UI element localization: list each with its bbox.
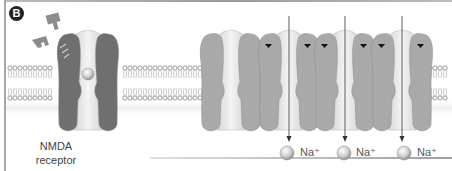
- lipid-tail: [139, 88, 142, 96]
- lipid-head: [438, 96, 442, 100]
- lipid-head: [18, 96, 22, 100]
- lipid-tail: [134, 70, 137, 78]
- lipid-tail: [29, 88, 32, 96]
- lipid-head: [13, 66, 17, 70]
- lipid-head: [193, 66, 197, 70]
- receptor: [57, 30, 118, 131]
- lipid-head: [38, 66, 42, 70]
- lipid-head: [188, 66, 192, 70]
- lipid-tail: [189, 88, 192, 96]
- lipid-tail: [169, 70, 172, 78]
- lipid-head: [158, 96, 162, 100]
- lipid-tail: [49, 70, 52, 78]
- lipid-head: [193, 96, 197, 100]
- sodium-ion-label: Na⁺: [417, 146, 437, 159]
- nmda-label-line1: NMDA: [30, 139, 82, 153]
- lipid-tail: [44, 88, 47, 96]
- lipid-head: [168, 96, 172, 100]
- glutamate-ligand: [46, 12, 63, 31]
- lipid-head: [138, 96, 142, 100]
- lipid-tail: [199, 88, 202, 96]
- lipid-head: [123, 66, 127, 70]
- lipid-tail: [444, 88, 447, 96]
- lipid-tail: [194, 70, 197, 78]
- lipid-tail: [19, 70, 22, 78]
- lipid-tail: [154, 88, 157, 96]
- lipid-head: [433, 66, 437, 70]
- lipid-tail: [179, 70, 182, 78]
- lipid-head: [158, 66, 162, 70]
- lipid-head: [8, 66, 12, 70]
- lipid-tail: [164, 70, 167, 78]
- lipid-head: [153, 96, 157, 100]
- lipid-tail: [159, 88, 162, 96]
- lipid-head: [183, 66, 187, 70]
- sodium-ion: [280, 146, 294, 160]
- lipid-tail: [29, 70, 32, 78]
- lipid-tail: [184, 88, 187, 96]
- sodium-ion-label: Na⁺: [300, 146, 320, 159]
- lipid-head: [48, 96, 52, 100]
- lipid-head: [188, 96, 192, 100]
- lipid-tail: [19, 88, 22, 96]
- lipid-tail: [179, 88, 182, 96]
- lipid-head: [143, 66, 147, 70]
- lipid-head: [128, 66, 132, 70]
- sodium-ion: [337, 146, 351, 160]
- glycine-ligand: [32, 36, 49, 48]
- receptors: [57, 30, 432, 131]
- lipid-head: [23, 66, 27, 70]
- lipid-head: [143, 96, 147, 100]
- lipid-head: [443, 96, 447, 100]
- nmda-receptor-label: NMDA receptor: [30, 139, 82, 167]
- lipid-head: [33, 66, 37, 70]
- lipid-tail: [169, 88, 172, 96]
- lipid-tail: [194, 88, 197, 96]
- lipid-head: [148, 96, 152, 100]
- lipid-tail: [39, 70, 42, 78]
- lipid-tail: [14, 70, 17, 78]
- lipid-head: [198, 96, 202, 100]
- lipid-tail: [124, 70, 127, 78]
- lipid-tail: [129, 70, 132, 78]
- lipid-tail: [9, 70, 12, 78]
- lipid-head: [148, 66, 152, 70]
- lipid-tail: [159, 70, 162, 78]
- lipid-head: [23, 96, 27, 100]
- lipid-head: [443, 66, 447, 70]
- lipid-head: [128, 96, 132, 100]
- lipid-head: [48, 66, 52, 70]
- lipid-tail: [164, 88, 167, 96]
- lipid-tail: [144, 88, 147, 96]
- lipid-head: [38, 96, 42, 100]
- lipid-tail: [134, 88, 137, 96]
- lipid-tail: [174, 88, 177, 96]
- lipid-tail: [174, 70, 177, 78]
- lipid-tail: [39, 88, 42, 96]
- lipid-tail: [199, 70, 202, 78]
- lipid-tail: [189, 70, 192, 78]
- arrow-head: [287, 136, 292, 142]
- lipid-head: [438, 66, 442, 70]
- lipid-head: [8, 96, 12, 100]
- lipid-tail: [434, 70, 437, 78]
- lipid-tail: [34, 70, 37, 78]
- lipid-head: [173, 96, 177, 100]
- arrow-head: [400, 136, 405, 142]
- lipid-tail: [149, 70, 152, 78]
- lipid-tail: [149, 88, 152, 96]
- lipid-head: [28, 96, 32, 100]
- lipid-head: [168, 66, 172, 70]
- lipid-tail: [439, 88, 442, 96]
- lipid-tail: [14, 88, 17, 96]
- lipid-tail: [154, 70, 157, 78]
- lipid-tail: [124, 88, 127, 96]
- lipid-head: [178, 96, 182, 100]
- lipid-tail: [439, 70, 442, 78]
- lipid-head: [433, 96, 437, 100]
- lipid-head: [13, 96, 17, 100]
- lipid-head: [43, 96, 47, 100]
- lipid-tail: [129, 88, 132, 96]
- ion-in-pore: [82, 68, 94, 80]
- sodium-ion-label: Na⁺: [356, 146, 376, 159]
